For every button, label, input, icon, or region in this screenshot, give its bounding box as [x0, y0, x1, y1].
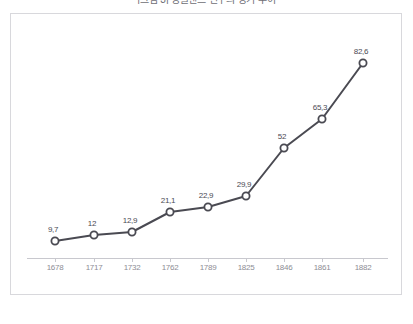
series-markers — [51, 59, 366, 244]
data-point-label: 12,9 — [123, 216, 137, 225]
series-line — [55, 63, 363, 241]
x-tick-label: 1678 — [47, 263, 64, 272]
x-tick-label: 1861 — [314, 263, 331, 272]
data-point-marker — [90, 231, 97, 238]
data-point-label: 22,9 — [199, 191, 213, 200]
data-point-label: 29,9 — [237, 180, 251, 189]
data-point-label: 9,7 — [48, 225, 58, 234]
x-tick-label: 1732 — [124, 263, 141, 272]
data-point-marker — [318, 115, 325, 122]
data-point-label: 12 — [88, 219, 96, 228]
x-axis — [27, 258, 388, 262]
data-point-label: 52 — [278, 132, 286, 141]
data-point-label: 82,6 — [354, 47, 368, 56]
data-point-label: 21,1 — [161, 196, 175, 205]
x-tick-label: 1846 — [276, 263, 293, 272]
x-tick-label: 1882 — [355, 263, 372, 272]
data-point-marker — [280, 144, 287, 151]
data-point-marker — [359, 59, 366, 66]
x-tick-label: 1717 — [86, 263, 103, 272]
data-point-marker — [128, 228, 135, 235]
x-tick-label: 1762 — [162, 263, 179, 272]
data-point-marker — [166, 208, 173, 215]
data-point-marker — [242, 192, 249, 199]
data-point-label: 65,3 — [313, 103, 327, 112]
data-point-marker — [204, 203, 211, 210]
x-axis-ticks — [55, 258, 363, 262]
x-tick-label: 1825 — [238, 263, 255, 272]
x-tick-label: 1789 — [200, 263, 217, 272]
plot-canvas — [0, 0, 413, 324]
data-point-marker — [51, 237, 58, 244]
